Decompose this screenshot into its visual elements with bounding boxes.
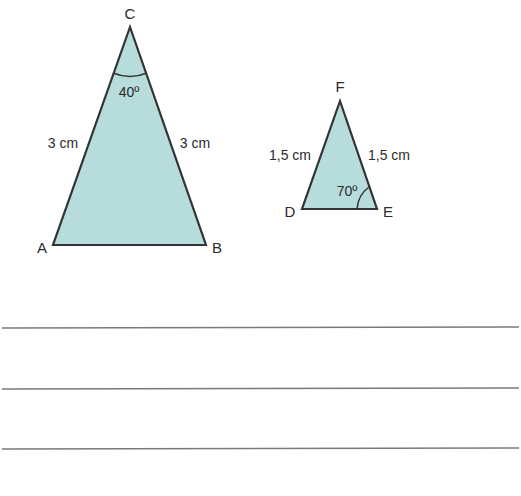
figure-canvas: 40º C A B 3 cm 3 cm 70º F D E 1,5 cm 1,5… <box>0 0 521 496</box>
vertex-d-label: D <box>285 203 296 220</box>
vertex-c-label: C <box>125 5 136 22</box>
answer-line[interactable] <box>2 327 519 328</box>
triangle-def: 70º F D E 1,5 cm 1,5 cm <box>269 78 410 220</box>
vertex-f-label: F <box>335 78 344 95</box>
answer-line[interactable] <box>2 388 519 389</box>
triangle-abc: 40º C A B 3 cm 3 cm <box>37 5 222 256</box>
answer-line[interactable] <box>2 448 519 449</box>
vertex-e-label: E <box>383 203 393 220</box>
side-df-label: 1,5 cm <box>269 147 311 163</box>
vertex-a-label: A <box>37 239 47 256</box>
side-ef-label: 1,5 cm <box>368 147 410 163</box>
side-bc-label: 3 cm <box>180 135 210 151</box>
answer-lines <box>2 327 519 449</box>
side-ac-label: 3 cm <box>48 135 78 151</box>
angle-c-label: 40º <box>119 84 140 100</box>
angle-e-label: 70º <box>337 183 358 199</box>
vertex-b-label: B <box>212 239 222 256</box>
